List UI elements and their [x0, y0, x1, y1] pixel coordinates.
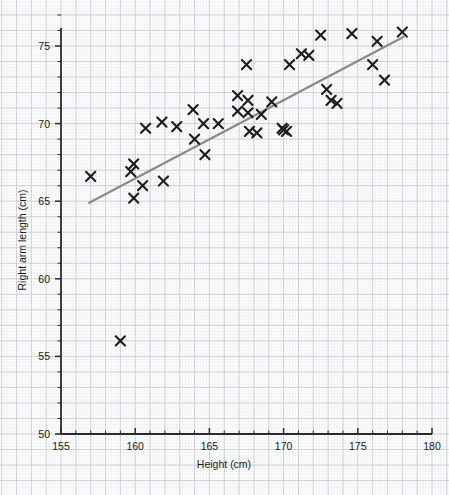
y-tick-label: 50 — [38, 428, 50, 440]
data-point — [372, 37, 381, 46]
data-point — [126, 167, 135, 176]
x-tick-label: 160 — [126, 440, 144, 452]
y-tick-label: 70 — [38, 118, 50, 130]
y-tick-label: 65 — [38, 195, 50, 207]
data-point — [188, 105, 197, 114]
x-axis-label: Height (cm) — [197, 458, 251, 470]
data-point — [141, 124, 150, 133]
chart-canvas: 155160165170175180 505560657075 Height (… — [0, 0, 449, 495]
y-axis-label: Right arm length (cm) — [16, 190, 28, 291]
y-tick-label: 75 — [38, 40, 50, 52]
x-axis-tick-labels: 155160165170175180 — [52, 440, 441, 452]
x-tick-label: 180 — [423, 440, 441, 452]
axes — [61, 28, 432, 434]
x-tick-label: 165 — [201, 440, 219, 452]
x-tick-label: 175 — [349, 440, 367, 452]
data-point — [316, 31, 325, 40]
data-point — [159, 176, 168, 185]
y-tick-label: 55 — [38, 350, 50, 362]
x-tick-label: 170 — [275, 440, 293, 452]
x-tick-label: 155 — [52, 440, 70, 452]
scatter-chart: 155160165170175180 505560657075 Height (… — [0, 0, 449, 495]
y-tick-label: 60 — [38, 273, 50, 285]
data-points — [86, 27, 407, 345]
